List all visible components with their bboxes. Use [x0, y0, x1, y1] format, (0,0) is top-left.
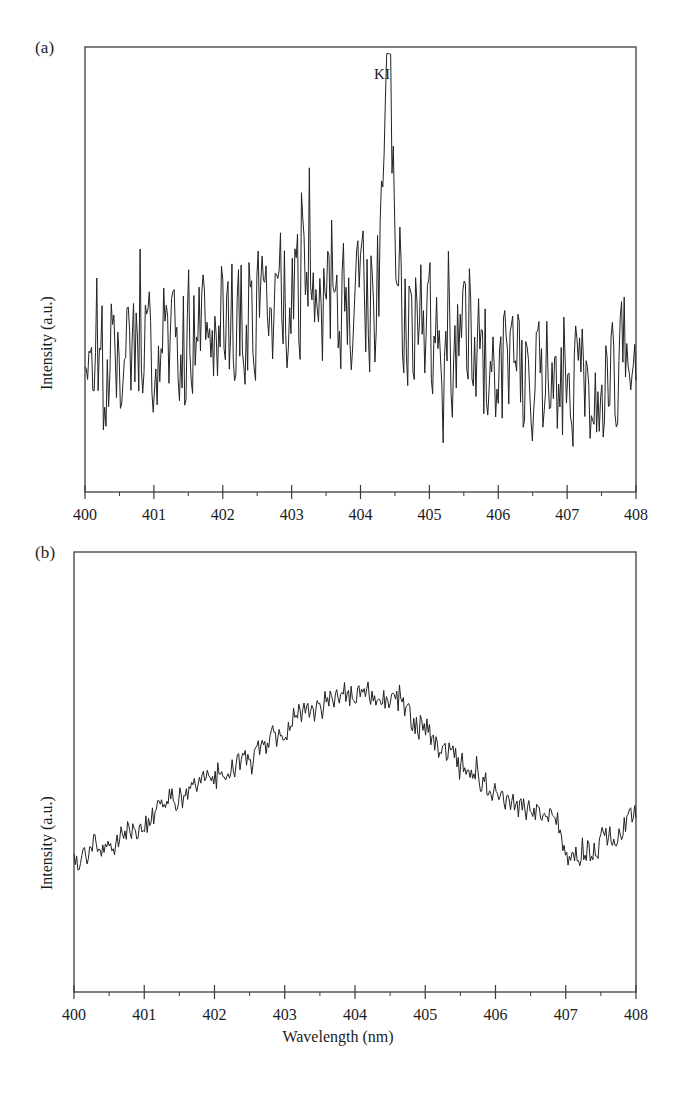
x-tick-label: 400 [62, 1006, 86, 1023]
spectrum-trace-b [74, 682, 636, 870]
y-axis-label-panel-b: Intensity (a.u.) [38, 796, 56, 890]
x-tick-label: 408 [624, 1006, 648, 1023]
x-tick-label: 406 [486, 506, 510, 523]
x-tick-label: 407 [554, 1006, 578, 1023]
panel-group-a: 400401402403404405406407408 [73, 47, 648, 523]
panel-label-b: (b) [35, 543, 55, 563]
peak-annotation-ki: KI [374, 66, 390, 83]
spectra-figure-canvas: 4004014024034044054064074084004014024034… [0, 0, 676, 1093]
plot-frame [74, 552, 636, 992]
panel-group-b: 400401402403404405406407408 [62, 552, 648, 1023]
x-tick-label: 403 [280, 506, 304, 523]
x-axis-label: Wavelength (nm) [0, 1028, 676, 1046]
x-tick-label: 403 [273, 1006, 297, 1023]
x-tick-label: 401 [132, 1006, 156, 1023]
x-tick-label: 401 [142, 506, 166, 523]
figure-root: 4004014024034044054064074084004014024034… [0, 0, 676, 1093]
y-axis-label-panel-a: Intensity (a.u.) [38, 296, 56, 390]
x-tick-label: 407 [555, 506, 579, 523]
x-tick-label: 400 [73, 506, 97, 523]
x-tick-label: 406 [484, 1006, 508, 1023]
x-tick-label: 402 [211, 506, 235, 523]
x-tick-label: 404 [343, 1006, 367, 1023]
x-tick-label: 404 [349, 506, 373, 523]
x-tick-label: 405 [417, 506, 441, 523]
x-tick-label: 408 [624, 506, 648, 523]
x-tick-label: 405 [413, 1006, 437, 1023]
spectrum-trace-a [85, 54, 636, 447]
x-tick-label: 402 [203, 1006, 227, 1023]
panel-label-a: (a) [35, 38, 54, 58]
plot-frame [85, 47, 636, 492]
